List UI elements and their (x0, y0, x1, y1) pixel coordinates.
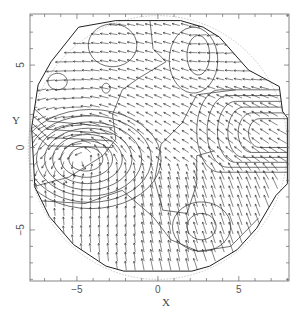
domain-circle (28, 16, 287, 280)
y-tick-label: 5 (15, 62, 26, 68)
quiver-plot: −505 50−5 X Y (0, 0, 305, 314)
x-axis-label: X (162, 296, 170, 308)
y-tick-labels: 50−5 (15, 62, 26, 236)
contour-lines (20, 19, 290, 271)
y-axis-label: Y (12, 114, 20, 126)
y-tick-label: 0 (15, 144, 26, 150)
x-tick-labels: −505 (71, 284, 242, 295)
y-tick-label: −5 (15, 224, 26, 236)
x-tick-label: −5 (71, 284, 83, 295)
x-tick-label: 5 (236, 284, 242, 295)
x-tick-label: 0 (155, 284, 161, 295)
